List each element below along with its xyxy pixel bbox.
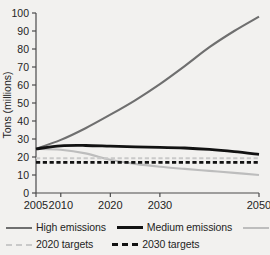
legend-row-2: 2020 targets 2030 targets (0, 236, 270, 253)
y-axis-ticks: 0102030405060708090100 (11, 7, 36, 199)
legend-item-high-emissions[interactable]: High emissions (6, 222, 106, 233)
emissions-line-chart: Tons (millions) 0102030405060708090100 2… (0, 0, 270, 255)
x-tick-label: 2010 (49, 199, 73, 211)
legend-label-2030-targets: 2030 targets (142, 239, 199, 250)
y-tick-label: 70 (17, 61, 29, 73)
legend-item-2030-targets[interactable]: 2030 targets (112, 239, 199, 250)
x-tick-label: 2005 (24, 199, 48, 211)
series-lines-group (36, 17, 259, 175)
series-line-high-emissions (36, 17, 259, 149)
y-tick-label: 10 (17, 169, 29, 181)
x-tick-label: 2020 (98, 199, 122, 211)
y-tick-label: 60 (17, 79, 29, 91)
x-axis-ticks: 20052010202020302050 (24, 193, 270, 211)
line-swatch-solid-gray-icon (6, 223, 32, 232)
chart-legend: High emissions Medium emissions Low emis… (0, 219, 270, 255)
y-axis-title: Tons (millions) (1, 71, 13, 138)
legend-label-medium-emissions: Medium emissions (147, 222, 232, 233)
y-tick-label: 40 (17, 115, 29, 127)
line-swatch-dashed-lightgray-icon (6, 240, 32, 249)
legend-row-1: High emissions Medium emissions Low emis… (0, 219, 270, 236)
y-axis-title-text: Tons (millions) (1, 71, 13, 138)
legend-label-high-emissions: High emissions (36, 222, 106, 233)
y-tick-label: 80 (17, 43, 29, 55)
x-tick-label: 2030 (148, 199, 172, 211)
y-tick-label: 20 (17, 151, 29, 163)
legend-label-2020-targets: 2020 targets (36, 239, 93, 250)
legend-item-low-emissions[interactable]: Low emissions (243, 222, 270, 233)
legend-item-medium-emissions[interactable]: Medium emissions (117, 222, 232, 233)
y-tick-label: 0 (23, 187, 29, 199)
chart-plot-area: Tons (millions) 0102030405060708090100 2… (0, 0, 270, 219)
line-swatch-solid-lightgray-icon (243, 223, 269, 232)
x-tick-label: 2050 (247, 199, 270, 211)
line-swatch-dashed-black-icon (112, 240, 138, 249)
y-tick-label: 30 (17, 133, 29, 145)
legend-item-2020-targets[interactable]: 2020 targets (6, 239, 93, 250)
line-swatch-solid-black-icon (117, 223, 143, 232)
y-tick-label: 90 (17, 25, 29, 37)
y-tick-label: 100 (11, 7, 29, 19)
y-tick-label: 50 (17, 97, 29, 109)
